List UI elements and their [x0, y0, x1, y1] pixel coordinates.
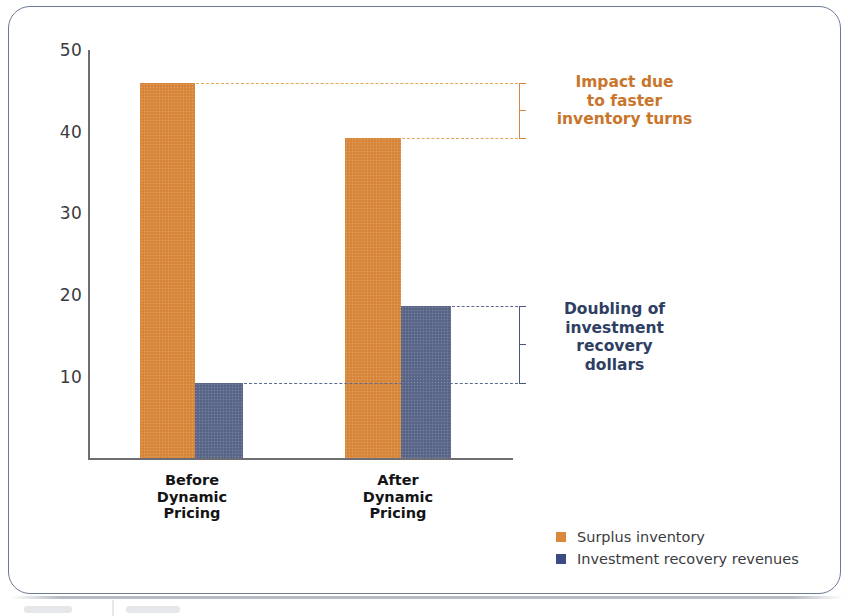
y-tick-50: 50: [30, 40, 82, 60]
y-tick-40: 40: [30, 122, 82, 142]
legend-item-surplus-inventory[interactable]: Surplus inventory: [556, 527, 799, 546]
bracket-doubling-mid-nub: [519, 344, 526, 345]
bracket-impact-mid-nub: [519, 110, 526, 111]
legend-item-investment-recovery[interactable]: Investment recovery revenues: [556, 549, 799, 568]
leader-line-surplus-before: [196, 83, 518, 84]
bracket-doubling-bottom-nub: [519, 383, 526, 384]
leader-line-recovery-after: [452, 306, 518, 307]
annotation-impact: Impact due to faster inventory turns: [532, 73, 717, 129]
x-category-after-line2: Dynamic: [318, 489, 478, 506]
x-category-before-line2: Dynamic: [112, 489, 272, 506]
legend-label-surplus-inventory: Surplus inventory: [577, 529, 705, 545]
annotation-impact-line1: Impact due: [532, 73, 717, 92]
annotation-impact-line3: inventory turns: [532, 110, 717, 129]
bar-investment-recovery-after[interactable]: [401, 306, 451, 458]
annotation-impact-line2: to faster: [532, 92, 717, 111]
bar-surplus-inventory-before[interactable]: [140, 83, 195, 458]
annotation-doubling-line3: recovery: [532, 337, 697, 356]
annotation-doubling-line2: investment: [532, 319, 697, 338]
x-axis-line: [88, 458, 513, 460]
annotation-doubling-line1: Doubling of: [532, 300, 697, 319]
y-tick-30: 30: [30, 203, 82, 223]
annotation-doubling-line4: dollars: [532, 356, 697, 375]
legend-swatch-investment-recovery: [556, 554, 566, 564]
y-tick-label-40: 40: [36, 122, 82, 142]
y-tick-10: 10: [30, 367, 82, 387]
x-category-after-line1: After: [318, 472, 478, 489]
x-category-after-line3: Pricing: [318, 505, 478, 522]
legend-swatch-surplus-inventory: [556, 532, 566, 542]
bracket-doubling: [519, 306, 527, 384]
leader-line-surplus-after: [402, 138, 518, 139]
annotation-doubling: Doubling of investment recovery dollars: [532, 300, 697, 374]
x-category-before-line3: Pricing: [112, 505, 272, 522]
x-category-label-before: Before Dynamic Pricing: [112, 472, 272, 522]
bar-surplus-inventory-after[interactable]: [345, 138, 401, 458]
y-tick-20: 20: [30, 285, 82, 305]
y-tick-label-10: 10: [36, 367, 82, 387]
bracket-impact-top-nub: [519, 83, 526, 84]
bracket-impact-bottom-nub: [519, 138, 526, 139]
bar-investment-recovery-before[interactable]: [195, 383, 243, 458]
y-axis-line: [88, 50, 90, 459]
x-category-before-line1: Before: [112, 472, 272, 489]
y-tick-label-20: 20: [36, 285, 82, 305]
y-tick-label-30: 30: [36, 203, 82, 223]
leader-line-recovery-before: [244, 383, 518, 384]
bracket-doubling-top-nub: [519, 306, 526, 307]
chart-legend: Surplus inventory Investment recovery re…: [556, 527, 799, 571]
bar-chart: 50 40 30 20 10 Before Dynamic Pricing Af…: [0, 0, 857, 616]
bracket-impact: [519, 83, 527, 139]
y-tick-label-50: 50: [36, 40, 82, 60]
legend-label-investment-recovery: Investment recovery revenues: [577, 551, 799, 567]
x-category-label-after: After Dynamic Pricing: [318, 472, 478, 522]
